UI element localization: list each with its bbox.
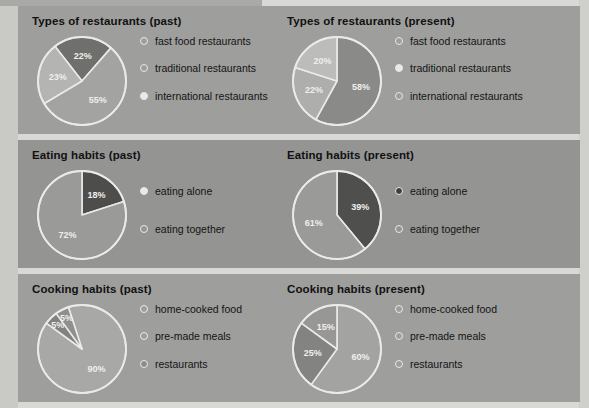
panel-cooking-habits: Cooking habits (past)90%5%5%home-cooked … [18,274,580,402]
legend-bullet-icon [140,64,148,72]
legend-item-label: international restaurants [410,90,523,102]
legend-item-label: fast food restaurants [155,35,251,47]
legend-bullet-icon [395,187,403,195]
chart-title: Cooking habits (present) [287,283,425,295]
legend-item[interactable]: restaurants [395,357,565,370]
legend-bullet-icon [395,360,403,368]
legend-item-label: restaurants [410,358,463,370]
pie-chart: 39%61% [285,166,389,264]
pie-slice-label: 20% [313,56,331,66]
legend-item-label: traditional restaurants [410,62,511,74]
panel-types-of-restaurants: Types of restaurants (past)22%55%23%fast… [18,6,580,134]
pie-slice-label: 5% [60,313,73,323]
legend-item-label: eating alone [155,185,212,197]
chart-title: Eating habits (present) [287,149,414,161]
chart-legend: eating aloneeating together [395,184,565,260]
legend-bullet-icon [140,360,148,368]
pie-slice-label: 61% [305,218,323,228]
pie-slice-label: 25% [304,348,322,358]
legend-item[interactable]: traditional restaurants [395,62,565,75]
chart-block-cooking-habits-past: Cooking habits (past)90%5%5%home-cooked … [18,274,280,402]
legend-item-label: home-cooked food [410,303,497,315]
pie-slice-label: 60% [351,352,369,362]
legend-bullet-icon [395,92,403,100]
legend-item-label: eating alone [410,185,467,197]
pie-slice-label: 72% [58,230,76,240]
legend-bullet-icon [395,64,403,72]
legend-item[interactable]: eating together [395,222,565,235]
chart-block-types-of-restaurants-past: Types of restaurants (past)22%55%23%fast… [18,6,280,134]
pie-chart: 58%22%20% [285,32,389,130]
pie-chart-container: 39%61% [285,166,389,264]
pie-slice-label: 39% [351,202,369,212]
legend-bullet-icon [395,305,403,313]
legend-item[interactable]: fast food restaurants [395,34,565,47]
legend-bullet-icon [140,332,148,340]
pie-slice-label: 23% [49,72,67,82]
pie-chart-container: 58%22%20% [285,32,389,130]
chart-block-eating-habits-present: Eating habits (present)39%61%eating alon… [273,140,580,268]
legend-bullet-icon [395,37,403,45]
chart-legend: home-cooked foodpre-made mealsrestaurant… [395,302,565,385]
legend-bullet-icon [140,37,148,45]
legend-item-label: eating together [155,223,225,235]
pie-chart-container: 22%55%23% [30,32,134,130]
pie-slice-label: 22% [305,85,323,95]
legend-item[interactable]: home-cooked food [395,302,565,315]
legend-item-label: international restaurants [155,90,268,102]
pie-chart: 22%55%23% [30,32,134,130]
legend-item[interactable]: international restaurants [395,89,565,102]
pie-slice-label: 18% [87,190,105,200]
pie-chart: 90%5%5% [30,300,134,398]
chart-title: Types of restaurants (present) [287,15,455,27]
pie-chart-container: 18%72% [30,166,134,264]
chart-block-types-of-restaurants-present: Types of restaurants (present)58%22%20%f… [273,6,580,134]
legend-item[interactable]: pre-made meals [395,330,565,343]
legend-bullet-icon [140,225,148,233]
pie-slice-label: 58% [352,82,370,92]
chart-block-eating-habits-past: Eating habits (past)18%72%eating aloneea… [18,140,280,268]
legend-bullet-icon [395,225,403,233]
chart-title: Types of restaurants (past) [32,15,181,27]
legend-item-label: restaurants [155,358,208,370]
infographic-sheet: Types of restaurants (past)22%55%23%fast… [0,0,589,408]
legend-item-label: eating together [410,223,480,235]
legend-item-label: home-cooked food [155,303,242,315]
legend-item-label: pre-made meals [155,330,231,342]
panel-eating-habits: Eating habits (past)18%72%eating aloneea… [18,140,580,268]
pie-slice-label: 55% [89,95,107,105]
legend-item-label: traditional restaurants [155,62,256,74]
pie-slice-label: 22% [74,51,92,61]
chart-title: Cooking habits (past) [32,283,152,295]
legend-bullet-icon [395,332,403,340]
pie-chart-container: 60%25%15% [285,300,389,398]
pie-chart: 60%25%15% [285,300,389,398]
chart-block-cooking-habits-present: Cooking habits (present)60%25%15%home-co… [273,274,580,402]
chart-legend: fast food restaurantstraditional restaur… [395,34,565,117]
legend-bullet-icon [140,305,148,313]
chart-title: Eating habits (past) [32,149,141,161]
pie-chart-container: 90%5%5% [30,300,134,398]
legend-bullet-icon [140,92,148,100]
legend-bullet-icon [140,187,148,195]
legend-item-label: pre-made meals [410,330,486,342]
pie-slice-label: 15% [317,322,335,332]
legend-item-label: fast food restaurants [410,35,506,47]
pie-slice-label: 90% [87,364,105,374]
pie-chart: 18%72% [30,166,134,264]
legend-item[interactable]: eating alone [395,184,565,197]
